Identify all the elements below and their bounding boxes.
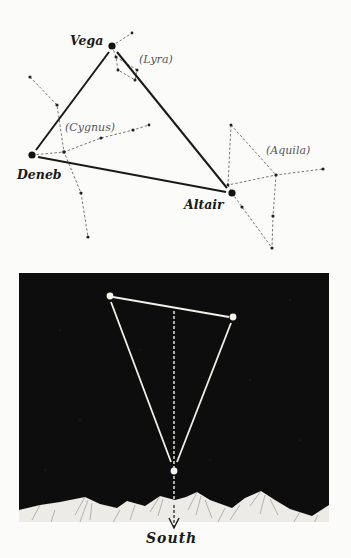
sky-star-deneb <box>107 293 114 300</box>
deneb-label: Deneb <box>16 167 62 182</box>
vega-star <box>108 42 115 49</box>
south-label: South <box>146 530 197 546</box>
vega-label: Vega <box>70 33 103 48</box>
lyra-label: (Lyra) <box>139 53 173 66</box>
night-sky-panel: South <box>19 273 329 546</box>
sky-star-vega <box>230 314 237 321</box>
aquila-stars <box>227 124 325 250</box>
sky-star-altair <box>171 468 178 475</box>
summer-triangle-figure: Vega Deneb Altair (Lyra) (Cygnus) (Aquil… <box>0 0 351 558</box>
aquila-label: (Aquila) <box>266 144 310 157</box>
altair-label: Altair <box>183 197 225 212</box>
altair-star <box>228 189 235 196</box>
top-star-chart: Vega Deneb Altair (Lyra) (Cygnus) (Aquil… <box>16 32 325 250</box>
cygnus-constellation-lines <box>30 77 149 237</box>
cygnus-label: (Cygnus) <box>65 121 115 134</box>
deneb-star <box>28 151 35 158</box>
cygnus-stars <box>28 75 150 238</box>
